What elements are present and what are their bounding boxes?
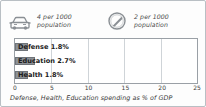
bar-label-health: Health 1.8% <box>18 71 63 79</box>
bar-series: Defense 1.8% Education 2.7% Health 1.8% <box>15 39 197 83</box>
chart-caption: Defense, Health, Education spending as %… <box>10 94 172 102</box>
stat-item-doctor: 2 per 1000 population <box>104 6 201 36</box>
stat-item-car: 4 per 1000 population <box>7 6 104 36</box>
stat-text-car: 4 per 1000 population <box>37 13 72 28</box>
x-tick-25: 25 <box>193 84 201 91</box>
stat-unit-doctor: population <box>134 21 169 29</box>
stat-value-car: 4 per 1000 <box>37 13 72 20</box>
infographic-panel: 4 per 1000 population 2 per 1000 populat… <box>0 0 206 107</box>
x-tick-20: 20 <box>158 84 166 91</box>
stat-unit-car: population <box>37 21 72 29</box>
x-tick-15: 15 <box>122 84 130 91</box>
stat-text-doctor: 2 per 1000 population <box>134 13 169 28</box>
bar-chart: Defense 1.8% Education 2.7% Health 1.8% <box>8 38 200 84</box>
bar-label-education: Education 2.7% <box>18 57 76 65</box>
stats-row: 4 per 1000 population 2 per 1000 populat… <box>7 6 201 36</box>
bar-label-defense: Defense 1.8% <box>18 43 69 51</box>
bar-row-education: Education 2.7% <box>15 54 197 68</box>
x-axis: 0 5 10 15 20 25 <box>8 84 200 93</box>
doctor-circle-icon <box>104 10 130 32</box>
car-icon <box>7 10 33 32</box>
x-tick-0: 0 <box>13 84 17 91</box>
bar-row-defense: Defense 1.8% <box>15 40 197 54</box>
stat-value-doctor: 2 per 1000 <box>134 13 169 20</box>
x-tick-5: 5 <box>50 84 54 91</box>
x-tick-10: 10 <box>85 84 93 91</box>
bar-row-health: Health 1.8% <box>15 68 197 82</box>
plot-area: Defense 1.8% Education 2.7% Health 1.8% <box>14 38 198 84</box>
